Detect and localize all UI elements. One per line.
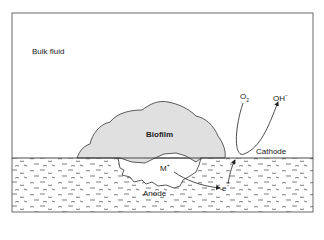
electron-label: e− bbox=[222, 183, 229, 193]
metal-ion-label: M+ bbox=[160, 163, 170, 173]
cathode-label: Cathode bbox=[256, 148, 286, 156]
hydroxide-label: OH− bbox=[273, 93, 288, 103]
bulk-fluid-label: Bulk fluid bbox=[32, 48, 64, 56]
biofilm-label: Biofilm bbox=[146, 131, 173, 139]
anode-label: Anode bbox=[143, 190, 166, 198]
oxygen-label: O2 bbox=[240, 93, 249, 103]
